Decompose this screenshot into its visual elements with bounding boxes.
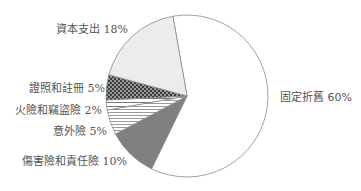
label-accident-insurance: 意外險 5% [53, 126, 107, 138]
pie-chart: 固定折舊 60% 傷害險和責任險 10% 意外險 5% 火險和竊盜險 2% 證照… [0, 0, 361, 191]
label-fire-theft-insurance: 火險和竊盜險 2% [15, 105, 102, 117]
label-liability-insurance: 傷害險和責任險 10% [22, 156, 127, 168]
label-licenses-registration: 證照和註冊 5% [29, 83, 105, 95]
label-capital-expenditure: 資本支出 18% [56, 24, 128, 36]
pie-slices [106, 15, 268, 177]
label-fixed-depreciation: 固定折舊 60% [280, 92, 352, 104]
